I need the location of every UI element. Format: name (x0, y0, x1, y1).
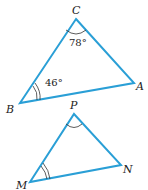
vertex-label-p: P (69, 99, 78, 112)
triangle-pmn (30, 114, 121, 182)
vertex-label-a: A (135, 80, 144, 93)
similar-triangles-diagram: C A B 78° 46° P N M (0, 0, 148, 190)
vertex-label-b: B (5, 103, 14, 116)
angle-label-c: 78° (69, 37, 87, 48)
vertex-label-c: C (72, 4, 81, 17)
angle-arc-b-inner (33, 86, 37, 100)
angle-label-b: 46° (45, 77, 63, 88)
angle-arc-p (66, 124, 82, 128)
triangle-cba (20, 19, 134, 103)
vertex-label-n: N (122, 163, 133, 176)
vertex-label-m: M (15, 179, 28, 190)
